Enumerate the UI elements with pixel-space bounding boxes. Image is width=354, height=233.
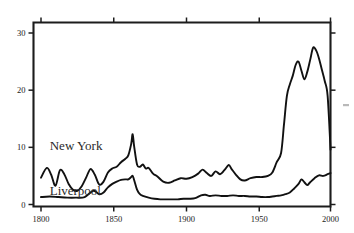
y-tick-label: 0 <box>21 200 25 210</box>
series-label-liverpool: Liverpool <box>50 183 102 198</box>
line-chart: 0102030 18001850190019502000 New York Li… <box>0 0 354 233</box>
chart-figure: 0102030 18001850190019502000 New York Li… <box>0 0 354 233</box>
x-tick-label: 1850 <box>105 214 122 224</box>
series-label-new-york: New York <box>50 138 103 153</box>
y-tick-label: 10 <box>17 142 26 152</box>
x-tick-label: 1800 <box>33 214 50 224</box>
x-tick-label: 1900 <box>178 214 195 224</box>
y-tick-label: 30 <box>17 28 26 38</box>
x-tick-label: 2000 <box>322 214 339 224</box>
x-tick-label: 1950 <box>251 214 268 224</box>
scan-artifact-mark <box>343 104 349 106</box>
y-tick-label: 20 <box>17 85 26 95</box>
